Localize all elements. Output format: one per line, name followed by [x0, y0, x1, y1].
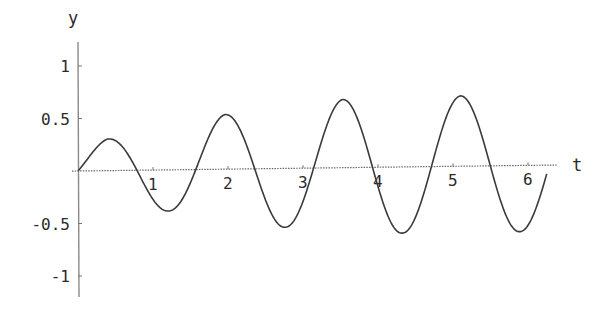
y-axis-label: y: [68, 8, 78, 28]
y-tick-label: -1: [51, 267, 70, 286]
x-tick-label: 5: [448, 171, 458, 190]
y-ticks: 10.5-0.5-1: [31, 57, 82, 286]
x-tick-label: 2: [223, 174, 233, 193]
axes: 123456 10.5-0.5-1: [31, 42, 558, 297]
chart: 123456 10.5-0.5-1 t y: [0, 0, 596, 310]
x-axis-label: t: [572, 155, 582, 175]
data-series-line: [78, 96, 547, 233]
x-tick-label: 6: [523, 170, 533, 189]
y-tick-label: -0.5: [31, 215, 70, 234]
y-tick-label: 0.5: [41, 110, 70, 129]
x-tick-label: 1: [148, 175, 158, 194]
x-tick-label: 3: [298, 173, 308, 192]
y-tick-label: 1: [60, 57, 70, 76]
